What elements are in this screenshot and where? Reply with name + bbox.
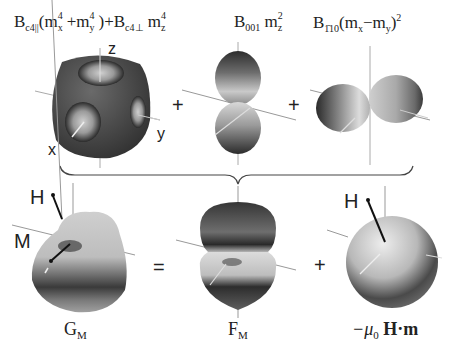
field-label-h-left: H	[30, 186, 44, 209]
axis-label-x: x	[48, 141, 56, 159]
label-anisotropy-energy: FM	[228, 319, 248, 341]
label-symbol: F	[228, 319, 238, 339]
equals-operator: =	[153, 256, 165, 279]
plus-operator-2: +	[288, 94, 300, 117]
label-symbol: H·m	[379, 319, 419, 339]
field-label-h-right: H	[344, 190, 358, 213]
uniaxial-001-surface	[182, 42, 296, 165]
plus-operator-3: +	[314, 254, 326, 277]
label-subscript: M	[77, 329, 87, 341]
label-zeeman-energy: −μ0 H·m	[352, 319, 418, 341]
label-total-energy: GM	[64, 319, 87, 341]
axis-label-y: y	[157, 125, 165, 143]
label-subscript: M	[238, 329, 248, 341]
axis-label-z: z	[108, 40, 116, 58]
anisotropy-energy-surface	[176, 186, 296, 318]
plus-operator-1: +	[172, 94, 184, 117]
magnetization-label-m: M	[14, 230, 31, 253]
label-symbol: −μ	[352, 319, 373, 339]
label-symbol: G	[64, 319, 77, 339]
uniaxial-110-surface	[310, 46, 430, 165]
energy-surfaces-graphic	[0, 0, 453, 349]
sum-brace	[60, 166, 413, 184]
